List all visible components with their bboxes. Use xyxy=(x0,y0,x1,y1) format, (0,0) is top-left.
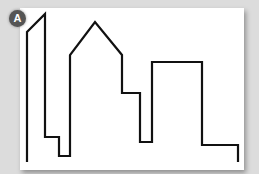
figure-label-badge: A xyxy=(9,10,26,27)
skyline-outline xyxy=(27,14,238,162)
skyline-drawing xyxy=(0,0,259,174)
